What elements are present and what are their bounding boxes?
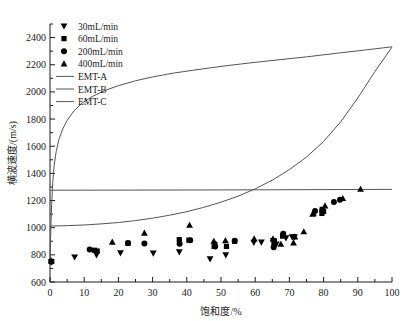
- legend-item-30ml-min: 30mL/min: [61, 22, 119, 32]
- y-tick-label-2200: 2200: [26, 59, 46, 70]
- legend-marker-swatch: [61, 23, 68, 29]
- x-tick-label-90: 90: [353, 287, 363, 298]
- x-tick-label-30: 30: [148, 287, 158, 298]
- data-point: [280, 231, 286, 237]
- x-tick-label-70: 70: [284, 287, 294, 298]
- y-tick-label-800: 800: [31, 249, 46, 260]
- y-tick-label-1400: 1400: [26, 168, 46, 179]
- legend-marker-swatch: [61, 48, 67, 54]
- legend-item-60ml-min: 60mL/min: [61, 34, 118, 44]
- x-tick-label-20: 20: [113, 287, 123, 298]
- legend-label: 30mL/min: [78, 22, 118, 32]
- x-tick-label-50: 50: [216, 287, 226, 298]
- data-point: [150, 251, 157, 257]
- data-point: [125, 240, 131, 246]
- y-tick-label-2000: 2000: [26, 86, 46, 97]
- legend-item-200ml-min: 200mL/min: [61, 47, 123, 57]
- data-point: [95, 248, 100, 253]
- data-point: [186, 222, 193, 228]
- data-point: [258, 239, 265, 245]
- data-point: [331, 199, 337, 205]
- legend-label: EMT-C: [78, 97, 107, 107]
- data-point: [117, 250, 124, 256]
- legend-marker-swatch: [61, 36, 66, 41]
- data-point: [300, 228, 307, 234]
- legend-item-400ml-min: 400mL/min: [61, 59, 124, 69]
- legend-item-emt-c: EMT-C: [56, 97, 107, 107]
- y-tick-label-1800: 1800: [26, 114, 46, 125]
- data-point: [177, 241, 183, 247]
- data-point: [71, 254, 78, 260]
- y-tick-label-1200: 1200: [26, 195, 46, 206]
- legend-label: EMT-B: [78, 85, 107, 95]
- legend-label: 200mL/min: [78, 47, 123, 57]
- chart-canvas: 0102030405060708090100600800100012001400…: [0, 0, 418, 321]
- data-point: [176, 249, 183, 255]
- x-tick-label-80: 80: [319, 287, 329, 298]
- data-point: [109, 238, 116, 244]
- data-point: [222, 252, 229, 258]
- legend-marker-swatch: [61, 60, 68, 66]
- data-point: [212, 243, 218, 249]
- data-point: [251, 235, 258, 241]
- data-point: [222, 237, 229, 243]
- x-tick-label-0: 0: [48, 287, 53, 298]
- legend-label: EMT-A: [78, 72, 107, 82]
- data-point: [141, 240, 147, 246]
- y-tick-label-1600: 1600: [26, 141, 46, 152]
- legend-item-emt-b: EMT-B: [56, 85, 107, 95]
- data-point: [224, 244, 229, 249]
- x-tick-label-40: 40: [182, 287, 192, 298]
- x-tick-label-10: 10: [79, 287, 89, 298]
- x-tick-label-100: 100: [385, 287, 400, 298]
- data-point: [210, 238, 217, 244]
- data-point: [271, 244, 277, 250]
- data-point: [87, 246, 93, 252]
- data-point: [141, 230, 148, 236]
- data-point: [322, 202, 329, 208]
- data-point: [232, 238, 238, 244]
- series-30ml-min: [48, 234, 298, 265]
- data-point: [187, 237, 193, 243]
- legend-item-emt-a: EMT-A: [56, 72, 107, 82]
- x-tick-label-60: 60: [250, 287, 260, 298]
- shear-wave-velocity-chart: 0102030405060708090100600800100012001400…: [0, 0, 418, 321]
- y-tick-label-600: 600: [31, 277, 46, 288]
- series-200ml-min: [48, 197, 343, 265]
- y-tick-label-1000: 1000: [26, 222, 46, 233]
- legend-label: 400mL/min: [78, 59, 123, 69]
- data-point: [290, 239, 297, 245]
- y-tick-label-2400: 2400: [26, 32, 46, 43]
- y-axis-label: 横波速度/(m/s): [6, 121, 19, 185]
- x-axis-label: 饱和度/%: [200, 305, 241, 317]
- data-point: [207, 256, 214, 262]
- curve-emt-b: [50, 189, 392, 190]
- legend-label: 60mL/min: [78, 34, 118, 44]
- data-point: [357, 186, 364, 192]
